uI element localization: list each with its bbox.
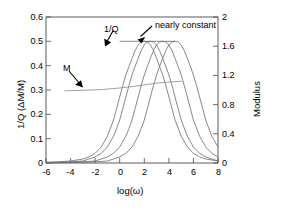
x-tick-0: 0 bbox=[115, 168, 126, 177]
annotation-modulus: M bbox=[63, 63, 71, 73]
y-right-tick-1.6: 1.6 bbox=[222, 42, 235, 51]
annotation-arrows bbox=[69, 26, 152, 88]
nearly-constant-arrow-line bbox=[141, 26, 153, 37]
y-right-tick-0.4: 0.4 bbox=[222, 130, 235, 139]
y-left-tick-0: 0 bbox=[30, 159, 43, 168]
y-right-axis-title: Modulus bbox=[252, 81, 262, 117]
x-tick--6: -6 bbox=[41, 168, 52, 177]
y-left-axis-title: 1/Q (ΔM/M) bbox=[16, 80, 26, 129]
x-tick--4: -4 bbox=[65, 168, 76, 177]
plot-canvas bbox=[0, 0, 283, 209]
y-left-tick-0.2: 0.2 bbox=[30, 110, 43, 119]
y-right-tick-1.2: 1.2 bbox=[222, 71, 235, 80]
y-left-tick-0.5: 0.5 bbox=[30, 37, 43, 46]
x-axis-title: log(ω) bbox=[117, 186, 143, 196]
q-curve-2 bbox=[46, 41, 218, 162]
modulus-arrow-line bbox=[69, 71, 80, 84]
y-left-tick-0.1: 0.1 bbox=[30, 135, 43, 144]
y-left-tick-0.4: 0.4 bbox=[30, 62, 43, 71]
y-right-tick-0.8: 0.8 bbox=[222, 101, 235, 110]
x-tick-8: 8 bbox=[213, 168, 224, 177]
x-tick--2: -2 bbox=[90, 168, 101, 177]
modulus-arrow-head bbox=[75, 80, 83, 87]
x-tick-2: 2 bbox=[139, 168, 150, 177]
y-right-tick-0: 0 bbox=[222, 159, 227, 168]
one-over-q-curves bbox=[46, 41, 218, 163]
y-right-ticks bbox=[213, 17, 218, 163]
annotation-nearly-constant: nearly constant bbox=[155, 20, 216, 30]
y-left-tick-0.6: 0.6 bbox=[30, 13, 43, 22]
y-right-tick-2: 2 bbox=[222, 13, 227, 22]
chart-figure: 0.6 0.5 0.4 0.3 0.2 0.1 0 2 1.6 1.2 0.8 … bbox=[0, 0, 283, 209]
x-tick-4: 4 bbox=[164, 168, 175, 177]
x-tick-6: 6 bbox=[188, 168, 199, 177]
nearly-constant-arrow-head bbox=[138, 37, 146, 43]
annotation-one-over-q: 1/Q bbox=[104, 24, 119, 34]
y-left-tick-0.3: 0.3 bbox=[30, 86, 43, 95]
plot-frame bbox=[46, 17, 218, 163]
y-left-ticks bbox=[46, 17, 51, 163]
